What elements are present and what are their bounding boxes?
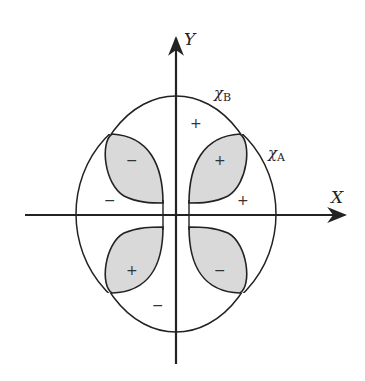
orbital-overlap-diagram: [0, 0, 365, 381]
sign-region-top: +: [190, 115, 202, 131]
y-axis-label: Y: [184, 29, 195, 49]
sign-lobe-lower-left: +: [126, 262, 138, 278]
sign-region-right: +: [237, 192, 249, 208]
sign-lobe-upper-left: −: [126, 152, 138, 168]
chi-b-label: χB: [214, 84, 231, 104]
chi-a-label: χA: [268, 144, 285, 164]
sign-region-left: −: [104, 192, 116, 208]
sign-lobe-lower-right: −: [214, 262, 226, 278]
x-axis-label: X: [331, 187, 343, 207]
sign-region-bottom: −: [152, 297, 164, 313]
lobe-lower-left: [105, 227, 163, 293]
lobe-lower-right: [189, 227, 247, 293]
sign-lobe-upper-right: +: [214, 152, 226, 168]
